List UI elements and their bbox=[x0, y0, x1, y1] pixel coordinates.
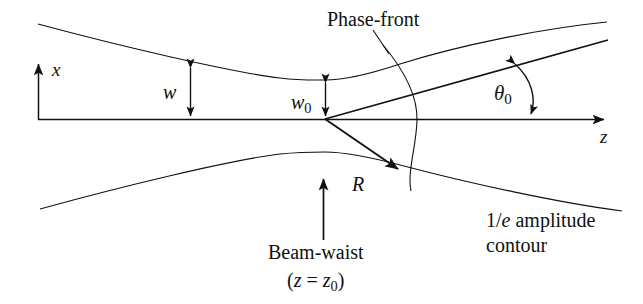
radius-of-curvature-group bbox=[325, 119, 398, 169]
paren-open: ( bbox=[287, 269, 294, 291]
divergence-angle-theta0-label: θ0 bbox=[494, 83, 512, 104]
beam-waist-title-label: Beam-waist bbox=[268, 242, 364, 262]
theta0-base: θ bbox=[494, 81, 504, 105]
contour-suffix: amplitude bbox=[510, 209, 595, 231]
beam-waist-coordinate-label: (z = z0) bbox=[287, 270, 344, 290]
lower-amplitude-contour bbox=[40, 152, 622, 211]
theta0-arc-arrow bbox=[515, 64, 533, 114]
contour-prefix: 1/ bbox=[486, 209, 502, 231]
axis-group bbox=[38, 64, 604, 120]
z-axis-label: z bbox=[600, 127, 607, 146]
upper-asymptote-line bbox=[325, 40, 608, 119]
beam-contour-group bbox=[38, 22, 622, 211]
x-axis-label: x bbox=[52, 60, 60, 79]
theta0-subscript: 0 bbox=[504, 91, 512, 107]
phase-front-label: Phase-front bbox=[327, 9, 419, 29]
phase-front-arc bbox=[383, 45, 417, 191]
waist-radius-w0-subscript: 0 bbox=[304, 100, 311, 116]
waist-radius-w0-base: w bbox=[291, 91, 304, 113]
radius-ray-R bbox=[325, 119, 398, 169]
waist-radius-w0-label: w0 bbox=[291, 92, 312, 112]
theta0-measure-group bbox=[515, 64, 533, 114]
phase-front-leader-line bbox=[373, 30, 389, 54]
paren-close: ) bbox=[338, 269, 345, 291]
asymptote-group bbox=[325, 40, 608, 119]
coord-z0-subscript: 0 bbox=[331, 278, 338, 294]
amplitude-contour-label-line2: contour bbox=[486, 235, 547, 255]
radius-of-curvature-R-label: R bbox=[352, 174, 364, 194]
amplitude-contour-label-line1: 1/e amplitude bbox=[486, 210, 595, 230]
coord-equals: = bbox=[301, 269, 322, 291]
gaussian-beam-diagram: x z Phase-front w w0 θ0 R Beam-waist (z … bbox=[0, 0, 643, 304]
beam-radius-w-label: w bbox=[163, 82, 176, 102]
coord-z0-base: z bbox=[323, 269, 331, 291]
